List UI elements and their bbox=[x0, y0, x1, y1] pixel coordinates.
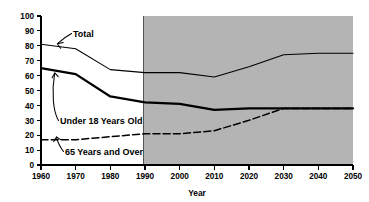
x-tick-label: 2040 bbox=[309, 172, 328, 181]
x-tick-label: 2020 bbox=[240, 172, 259, 181]
y-tick-label: 30 bbox=[25, 117, 35, 126]
series-label-total: Total bbox=[73, 29, 94, 39]
y-tick-label: 80 bbox=[25, 42, 35, 51]
y-tick-marks bbox=[37, 16, 42, 165]
x-tick-label: 2030 bbox=[275, 172, 294, 181]
y-tick-label: 20 bbox=[25, 131, 35, 140]
dependency-ratio-line-chart: 100 90 80 70 60 50 40 30 20 10 0 bbox=[0, 0, 369, 202]
x-tick-label: 1960 bbox=[32, 172, 51, 181]
x-tick-labels: 1960 1970 1980 1990 2000 2010 2020 2030 … bbox=[32, 172, 363, 181]
projection-shaded-region bbox=[144, 16, 353, 165]
series-label-65-over: 65 Years and Over bbox=[65, 147, 143, 157]
x-tick-label: 2000 bbox=[171, 172, 190, 181]
under18-leader-line bbox=[53, 74, 58, 121]
projection-band-group bbox=[144, 16, 353, 165]
x-tick-label: 2050 bbox=[344, 172, 363, 181]
x-tick-label: 1980 bbox=[101, 172, 120, 181]
callout-leaders bbox=[52, 34, 71, 152]
y-tick-label: 50 bbox=[25, 87, 35, 96]
x-tick-marks bbox=[41, 165, 353, 170]
y-tick-label: 10 bbox=[25, 146, 35, 155]
y-tick-label: 70 bbox=[25, 57, 35, 66]
x-axis-title: Year bbox=[188, 188, 206, 198]
y-tick-labels: 100 90 80 70 60 50 40 30 20 10 0 bbox=[20, 12, 34, 170]
x-tick-label: 1970 bbox=[67, 172, 86, 181]
y-tick-label: 100 bbox=[20, 12, 34, 21]
x-tick-label: 1990 bbox=[136, 172, 155, 181]
y-tick-label: 40 bbox=[25, 102, 35, 111]
under18-arrowhead bbox=[52, 73, 58, 78]
x-tick-label: 2010 bbox=[205, 172, 224, 181]
y-tick-label: 90 bbox=[25, 27, 35, 36]
y-tick-label: 60 bbox=[25, 72, 35, 81]
y-tick-label: 0 bbox=[29, 161, 34, 170]
series-label-under-18: Under 18 Years Old bbox=[60, 116, 142, 126]
chart-figure: 100 90 80 70 60 50 40 30 20 10 0 bbox=[0, 0, 369, 202]
total-leader-line bbox=[58, 34, 72, 44]
